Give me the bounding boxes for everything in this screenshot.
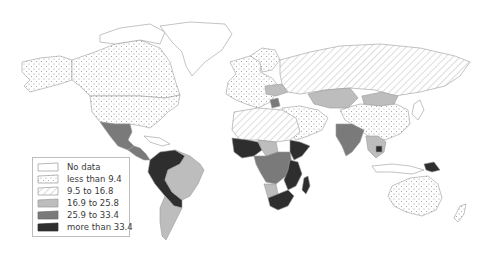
region-alaska [22,56,72,92]
legend-swatch-dark [37,222,59,232]
legend-label: 16.9 to 25.8 [67,198,119,208]
legend-item-no-data: No data [37,161,100,173]
legend-label: 25.9 to 33.4 [67,210,119,220]
legend-item-class-5: more than 33.4 [37,221,133,233]
legend-label: 9.5 to 16.8 [67,186,113,196]
legend-label: less than 9.4 [67,174,122,184]
legend-swatch-light [37,198,59,208]
legend-item-class-2: 9.5 to 16.8 [37,185,113,197]
region-australia [388,176,442,216]
region-central-america [128,146,150,160]
region-caribbean [144,136,170,146]
region-mexico [100,122,134,150]
legend-swatch-hatch [37,186,59,196]
region-papua-new-guinea [424,162,440,172]
region-canada [72,40,180,98]
region-japan [412,100,424,120]
map-legend: No data less than 9.4 9.5 to 16.8 16.9 t… [32,157,130,237]
legend-swatch-dots [37,174,59,184]
region-west-africa [232,138,262,158]
legend-item-class-4: 25.9 to 33.4 [37,209,119,221]
legend-item-class-1: less than 9.4 [37,173,122,185]
legend-label: more than 33.4 [67,222,133,232]
region-new-zealand [454,204,466,222]
region-russia [280,44,470,96]
region-india [336,124,364,156]
legend-item-class-3: 16.9 to 25.8 [37,197,119,209]
region-indonesia [372,164,424,174]
region-cambodia [376,146,382,152]
region-canada-islands [100,24,165,44]
region-horn-of-africa [290,140,310,160]
legend-label: No data [67,162,100,172]
region-balkans [270,98,280,108]
legend-swatch-no-data [37,162,59,172]
region-madagascar [302,176,310,194]
legend-swatch-medium [37,210,59,220]
